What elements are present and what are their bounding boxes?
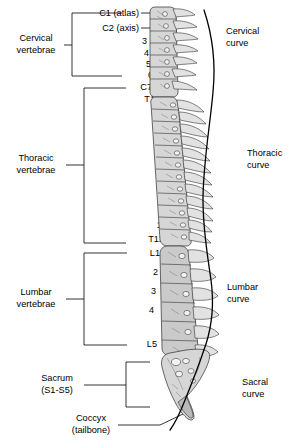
cervical-curve-line1: Cervical <box>226 26 259 36</box>
vertebra-label-c4: 4 <box>144 48 149 58</box>
sacrum-coccyx-group <box>161 349 209 420</box>
coccyx-leader <box>118 414 183 425</box>
lumbar-curve-line2: curve <box>227 294 249 304</box>
sacral-curve-line1: Sacral <box>242 377 268 387</box>
lumbar-label-line2: vertebrae <box>17 299 56 309</box>
lumbar-vertebrae-group <box>160 246 219 356</box>
lumbar-curve-label: Lumbar curve <box>227 282 258 304</box>
coccyx-group-label: Coccyx (tailbone) <box>72 413 110 435</box>
sacrum-bracket <box>84 362 150 407</box>
vertebra-label-l5: L5 <box>147 339 157 349</box>
thoracic-label-line1: Thoracic <box>18 153 54 163</box>
vertebra-label-c1: C1 (atlas) <box>99 8 139 18</box>
vertebra-label-l2: 2 <box>153 267 158 277</box>
cervical-vertebrae-group <box>150 7 198 97</box>
cervical-curve-line2: curve <box>226 38 248 48</box>
sacrum-label-line1: Sacrum <box>41 373 73 383</box>
cervical-label-line1: Cervical <box>19 33 52 43</box>
vertebra-label-c2: C2 (axis) <box>102 23 139 33</box>
lumbar-label-line1: Lumbar <box>20 287 51 297</box>
sacral-curve-line2: curve <box>242 389 264 399</box>
thoracic-bracket <box>66 88 126 243</box>
sacrum-label-line2: (S1-S5) <box>41 385 73 395</box>
lumbar-vertebra-labels: L1 2 3 4 L5 <box>147 248 160 349</box>
thoracic-label-line2: vertebrae <box>17 165 56 175</box>
cervical-curve-label: Cervical curve <box>226 26 259 48</box>
lumbar-curve-line1: Lumbar <box>227 282 258 292</box>
sacrum-group-label: Sacrum (S1-S5) <box>41 373 73 395</box>
vertebra-label-l4: 4 <box>149 305 154 315</box>
cervical-label-line2: vertebrae <box>17 45 56 55</box>
cervical-group-label: Cervical vertebrae <box>17 33 56 55</box>
vertebra-label-c3: 3 <box>142 36 147 46</box>
vertebra-label-l3: 3 <box>151 286 156 296</box>
lumbar-group-label: Lumbar vertebrae <box>17 287 56 309</box>
cervical-vertebra-labels: C1 (atlas) C2 (axis) 3 4 5 6 C7 <box>99 8 153 92</box>
thoracic-curve-line2: curve <box>247 160 269 170</box>
thoracic-curve-label: Thoracic curve <box>247 148 283 170</box>
lumbar-bracket <box>66 253 127 345</box>
vertebra-label-l1: L1 <box>150 248 160 258</box>
sacral-curve-label: Sacral curve <box>242 377 268 399</box>
coccyx-label-line1: Coccyx <box>76 413 107 423</box>
thoracic-curve-line1: Thoracic <box>247 148 283 158</box>
coccyx-label-line2: (tailbone) <box>72 425 110 435</box>
vertebral-column-diagram: Cervical vertebrae Thoracic vertebrae Lu… <box>0 0 299 448</box>
spine-illustration <box>150 7 219 420</box>
thoracic-group-label: Thoracic vertebrae <box>17 153 56 175</box>
